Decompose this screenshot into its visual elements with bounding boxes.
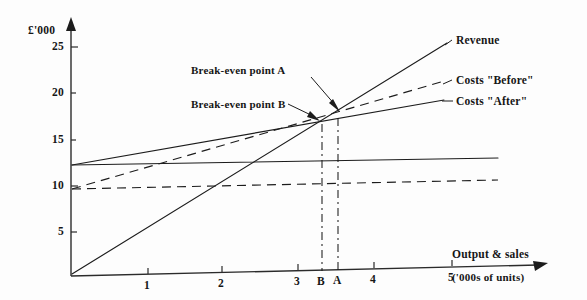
series-fixed-costs-after-line	[72, 158, 498, 165]
series-label-leaders	[442, 40, 453, 101]
series-label-costs-after: Costs "After"	[456, 95, 527, 107]
break-even-b-leader	[288, 104, 320, 121]
y-axis	[66, 17, 78, 276]
series-label-costs-before: Costs "Before"	[456, 74, 534, 86]
y-tick-label-20: 20	[40, 86, 64, 98]
break-even-chart: £'000 25 20 15 10 5 1 2 3 4 5 B A Output…	[0, 0, 587, 300]
y-axis-label: £'000	[28, 24, 55, 36]
x-axis-label: Output & sales	[452, 248, 529, 260]
y-tick-label-15: 15	[40, 133, 64, 145]
x-tick-label-3: 3	[294, 275, 300, 287]
x-tick-label-1: 1	[144, 279, 150, 291]
break-even-b-arrow-icon	[307, 111, 320, 121]
annotation-break-even-a: Break-even point A	[191, 64, 285, 76]
x-axis-arrow-icon	[533, 261, 548, 271]
y-tick-label-10: 10	[40, 179, 64, 191]
y-tick-label-25: 25	[40, 40, 64, 52]
x-axis-units-label: ('000s of units)	[452, 271, 524, 283]
x-tick-label-2: 2	[218, 277, 224, 289]
x-marker-label-b: B	[317, 275, 325, 287]
break-even-a-leader	[311, 77, 340, 112]
y-tick-label-5: 5	[40, 225, 64, 237]
x-marker-label-a: A	[333, 274, 342, 286]
y-axis-arrow-icon	[66, 17, 76, 31]
series-fixed-costs-before-line	[72, 180, 498, 189]
series-revenue-line	[72, 43, 447, 274]
break-even-a-arrow-icon	[329, 99, 340, 112]
annotation-break-even-b: Break-even point B	[191, 98, 285, 110]
series-label-revenue: Revenue	[456, 34, 500, 46]
x-tick-label-4: 4	[370, 273, 376, 285]
